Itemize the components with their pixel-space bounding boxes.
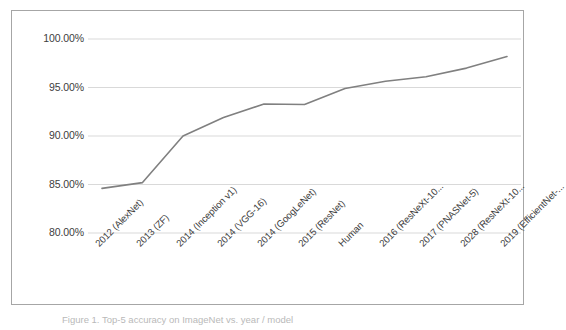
- chart-frame: 100.00%95.00%90.00%85.00%80.00% 2012 (Al…: [11, 10, 524, 305]
- y-axis-tick-label: 80.00%: [26, 226, 84, 238]
- y-axis-tick-label: 90.00%: [26, 129, 84, 141]
- y-axis-tick-label: 85.00%: [26, 178, 84, 190]
- y-axis-tick-label: 95.00%: [26, 81, 84, 93]
- figure-caption: Figure 1. Top-5 accuracy on ImageNet vs.…: [62, 314, 492, 325]
- accuracy-trend-line: [102, 57, 507, 189]
- chart-plot-area: [12, 11, 523, 304]
- y-axis-tick-label: 100.00%: [26, 32, 84, 44]
